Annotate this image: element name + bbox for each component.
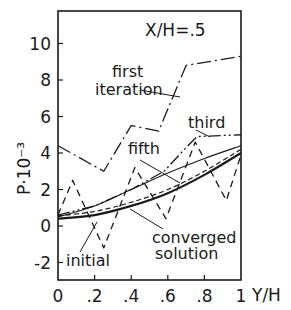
annotation-fifth: fifth bbox=[128, 139, 160, 158]
x-tick-label: 0 bbox=[53, 286, 64, 306]
y-tick-label: 6 bbox=[40, 107, 51, 127]
annotation-iteration: iteration bbox=[95, 80, 163, 99]
annotation-first: first bbox=[112, 62, 143, 81]
y-tick-label: 8 bbox=[40, 70, 51, 90]
y-tick-label: 0 bbox=[40, 216, 51, 236]
x-tick-label: 1 bbox=[236, 286, 247, 306]
annotation-third: third bbox=[188, 113, 225, 132]
x-tick-label: .6 bbox=[160, 286, 176, 306]
y-tick-label: 4 bbox=[40, 143, 51, 163]
y-axis-label: P·10⁻³ bbox=[14, 142, 34, 195]
y-tick-label: 2 bbox=[40, 180, 51, 200]
series-line-converged-dashed-companion bbox=[58, 149, 241, 216]
x-axis-label: Y/H bbox=[251, 285, 281, 305]
x-tick-label: .4 bbox=[123, 286, 139, 306]
annotation-initial: initial bbox=[66, 251, 110, 270]
annotation-solution: solution bbox=[155, 244, 218, 263]
leader-converged bbox=[130, 209, 163, 229]
chart: 0.2.4.6.81 -20246810 X/H=.5 Y/H P·10⁻³ f… bbox=[0, 0, 291, 310]
x-tick-label: .2 bbox=[86, 286, 102, 306]
x-tick-label: .8 bbox=[196, 286, 212, 306]
chart-title: X/H=.5 bbox=[145, 20, 206, 40]
y-tick-label: -2 bbox=[34, 253, 51, 273]
leader-initial bbox=[80, 222, 97, 252]
leader-fifth bbox=[140, 160, 180, 183]
y-tick-label: 10 bbox=[29, 34, 51, 54]
